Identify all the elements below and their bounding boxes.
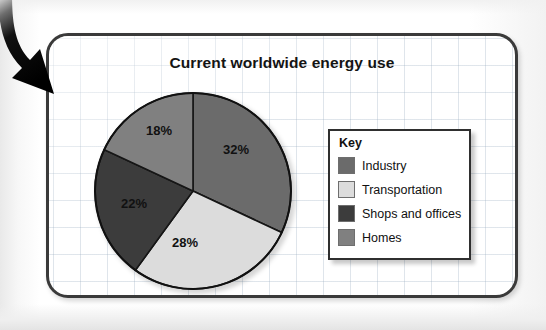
legend-swatch-transportation [338,181,355,198]
pie-chart-svg: 32% 28% 22% 18% [93,91,293,291]
legend-label-homes: Homes [362,232,402,245]
page-background-bottom-shade [0,304,546,330]
legend-heading: Key [339,137,461,151]
legend-label-transportation: Transportation [362,184,442,197]
legend-box: Key Industry Transportation Shops and of… [328,129,471,260]
pie-label-homes: 18% [146,123,172,138]
pie-label-shops-and-offices: 22% [121,196,147,211]
legend-item-industry: Industry [338,154,461,178]
screenshot-root: Current worldwide energy use 32% 28% 22%… [0,0,546,330]
legend-item-homes: Homes [338,226,461,250]
legend-swatch-industry [338,157,355,174]
legend-item-transportation: Transportation [338,178,461,202]
legend-label-industry: Industry [362,160,406,173]
pie-label-industry: 32% [223,142,249,157]
legend-swatch-shops-and-offices [338,205,355,222]
legend-label-shops-and-offices: Shops and offices [362,208,461,221]
pie-chart: 32% 28% 22% 18% [93,91,293,291]
legend-item-shops-and-offices: Shops and offices [338,202,461,226]
chart-panel: Current worldwide energy use 32% 28% 22%… [46,33,518,298]
page-background-top-shade [0,0,546,14]
page-title: Current worldwide energy use [49,54,515,72]
legend-swatch-homes [338,229,355,246]
pie-label-transportation: 28% [172,235,198,250]
